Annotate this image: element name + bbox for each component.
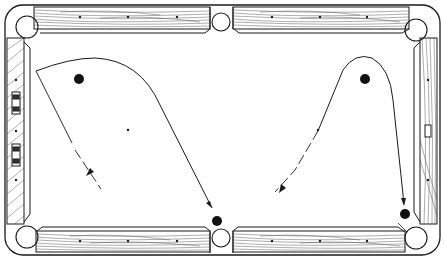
rail-top-right	[233, 7, 409, 29]
rail-bottom-left	[36, 231, 210, 252]
right-shot-dashed-line	[275, 131, 318, 192]
pocket-top-right	[405, 19, 427, 41]
diamond	[79, 240, 81, 242]
left-shot-approach-line	[36, 71, 72, 143]
rail-diamonds	[15, 16, 429, 242]
diamond	[15, 130, 17, 132]
diamond	[176, 240, 178, 242]
right-shot-arrow-icon	[279, 184, 286, 193]
diamond	[79, 16, 81, 18]
table-outer-frame	[5, 5, 440, 255]
left-shot-arrowhead-icon	[206, 201, 212, 208]
diamond	[319, 16, 321, 18]
right-object-ball	[360, 74, 370, 84]
pocket-bottom-left	[16, 226, 38, 248]
diamond	[271, 240, 273, 242]
right-target-ball	[400, 209, 410, 219]
rail-top-left	[34, 7, 210, 29]
right-shot	[275, 57, 410, 233]
pool-table-diagram: Billiard table diagram with two curved s…	[0, 0, 444, 262]
rail-left	[7, 38, 24, 230]
diamond	[176, 16, 178, 18]
pockets	[16, 7, 427, 253]
diamond	[15, 179, 17, 181]
diamond	[427, 179, 429, 181]
diamond	[271, 16, 273, 18]
left-shot	[36, 58, 222, 226]
diamond	[366, 16, 368, 18]
left-object-ball	[74, 74, 84, 84]
head-spot	[127, 129, 129, 131]
left-shot-dashed-line	[75, 150, 101, 189]
right-shot-arrowhead-icon	[401, 198, 406, 206]
pocket-bottom-side	[212, 229, 230, 247]
diamond	[319, 240, 321, 242]
diamond	[127, 240, 129, 242]
pocket-top-side	[212, 13, 230, 31]
table-svg	[0, 0, 444, 262]
diamond	[127, 16, 129, 18]
diamond	[15, 79, 17, 81]
cushions	[24, 29, 420, 232]
rail-hardware	[12, 92, 431, 166]
left-shot-arrow-icon	[86, 168, 94, 176]
left-shot-curve	[36, 58, 212, 208]
pocket-bottom-right	[405, 227, 427, 249]
left-target-ball	[212, 216, 222, 226]
pocket-top-left	[16, 16, 38, 38]
diamond	[427, 79, 429, 81]
diamond	[366, 240, 368, 242]
